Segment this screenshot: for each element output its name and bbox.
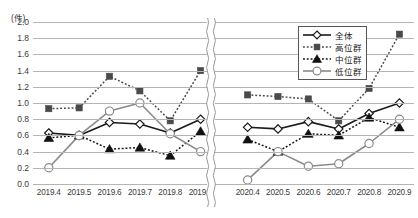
x-tick-label: 2019.6 bbox=[98, 188, 122, 197]
gridline bbox=[33, 87, 414, 88]
legend-item-高位群[interactable]: 高位群 bbox=[302, 41, 361, 53]
legend-symbol-triangle-filled bbox=[302, 53, 332, 65]
legend: 全体高位群中位群低位群 bbox=[298, 26, 367, 80]
y-tick-label: 1.6 bbox=[3, 49, 29, 59]
x-tick-label: 2020.6 bbox=[296, 188, 320, 197]
x-tick-label: 2019.9 bbox=[189, 188, 213, 197]
gridline bbox=[33, 152, 414, 153]
line-chart: (件) 2.01.81.61.41.21.00.80.60.40.20.0 20… bbox=[0, 0, 418, 218]
gridline bbox=[33, 135, 414, 136]
x-tick-label: 2019.7 bbox=[128, 188, 152, 197]
y-tick-label: 1.2 bbox=[3, 82, 29, 92]
data-point-diamond-open bbox=[313, 31, 321, 39]
gridline bbox=[33, 22, 414, 23]
data-point-triangle-filled bbox=[312, 55, 321, 63]
y-tick-label: 0.0 bbox=[3, 179, 29, 189]
gridline bbox=[33, 119, 414, 120]
legend-symbol-circle-open bbox=[302, 65, 332, 77]
y-tick-label: 1.0 bbox=[3, 98, 29, 108]
y-tick-label: 0.2 bbox=[3, 163, 29, 173]
legend-label: 中位群 bbox=[335, 53, 361, 65]
x-axis-tick-labels: 2019.42019.52019.62019.72019.82019.92020… bbox=[33, 186, 414, 204]
y-tick-label: 2.0 bbox=[3, 17, 29, 27]
data-point-circle-open bbox=[313, 67, 321, 75]
legend-label: 低位群 bbox=[335, 65, 361, 77]
x-tick-label: 2020.9 bbox=[388, 188, 412, 197]
legend-item-中位群[interactable]: 中位群 bbox=[302, 53, 361, 65]
y-tick-label: 0.4 bbox=[3, 147, 29, 157]
y-tick-label: 1.4 bbox=[3, 66, 29, 76]
gridline bbox=[33, 168, 414, 169]
y-tick-label: 1.8 bbox=[3, 33, 29, 43]
x-tick-label: 2020.4 bbox=[236, 188, 260, 197]
data-point-square-filled bbox=[314, 44, 320, 50]
legend-symbol-diamond-open bbox=[302, 29, 332, 41]
gridline bbox=[33, 184, 414, 185]
x-tick-label: 2020.8 bbox=[357, 188, 381, 197]
x-tick-label: 2020.5 bbox=[266, 188, 290, 197]
x-tick-label: 2019.4 bbox=[37, 188, 61, 197]
legend-symbol-square-filled bbox=[302, 41, 332, 53]
y-tick-label: 0.8 bbox=[3, 114, 29, 124]
legend-label: 高位群 bbox=[335, 41, 361, 53]
x-tick-label: 2020.7 bbox=[327, 188, 351, 197]
x-tick-label: 2019.5 bbox=[67, 188, 91, 197]
y-axis-tick-labels: 2.01.81.61.41.21.00.80.60.40.20.0 bbox=[0, 0, 29, 218]
legend-item-低位群[interactable]: 低位群 bbox=[302, 65, 361, 77]
legend-item-全体[interactable]: 全体 bbox=[302, 29, 361, 41]
gridline bbox=[33, 103, 414, 104]
y-tick-label: 0.6 bbox=[3, 130, 29, 140]
legend-label: 全体 bbox=[335, 29, 353, 41]
x-tick-label: 2019.8 bbox=[158, 188, 182, 197]
